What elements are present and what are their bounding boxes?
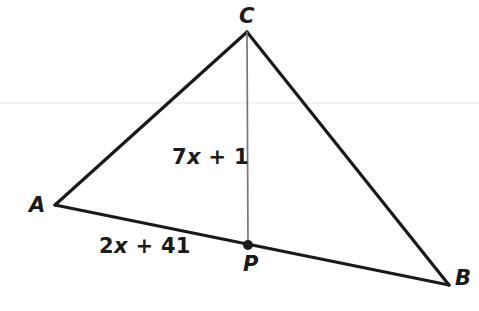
diagram-canvas: C A B P 7x + 1 2x + 41 [0, 0, 479, 311]
base-variable: x [114, 234, 128, 258]
segment-ac [55, 32, 247, 205]
vertex-label-c: C [239, 6, 255, 27]
base-constant: + 41 [128, 234, 191, 258]
cevian-variable: x [187, 145, 201, 169]
point-label-p: P [243, 254, 259, 275]
cevian-constant: + 1 [201, 145, 249, 169]
vertex-label-a: A [29, 195, 45, 216]
base-coefficient: 2 [99, 234, 114, 258]
vertex-label-b: B [455, 268, 471, 289]
measure-label-base: 2x + 41 [99, 236, 191, 257]
segment-cb [247, 32, 449, 285]
measure-label-cevian: 7x + 1 [172, 147, 249, 168]
point-p-marker [243, 240, 253, 250]
segment-cp-cevian [247, 32, 248, 245]
cevian-coefficient: 7 [172, 145, 187, 169]
